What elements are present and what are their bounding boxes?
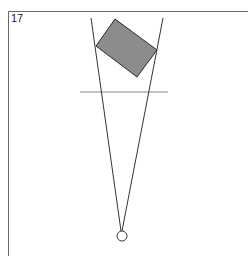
tilted-rectangle [96,19,157,77]
viewpoint-circle [117,231,127,241]
